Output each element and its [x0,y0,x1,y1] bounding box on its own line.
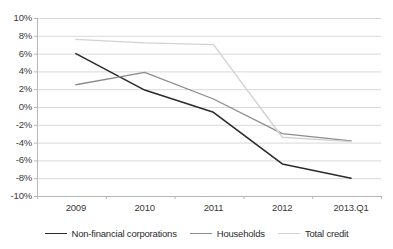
y-axis-tick-label: 6% [0,49,32,59]
legend-label: Total credit [305,228,349,239]
y-axis-tick-label: 8% [0,31,32,41]
y-axis-tick-label: -10% [0,191,32,201]
chart-legend: Non-financial corporationsHouseholdsTota… [0,228,393,239]
y-axis-tick-label: -6% [0,155,32,165]
legend-label: Non-financial corporations [72,228,177,239]
legend-item[interactable]: Households [190,228,265,239]
y-axis-tick-label: -4% [0,138,32,148]
x-axis-tick-label: 2012 [247,202,317,213]
series-line [76,39,351,141]
legend-swatch-icon [45,233,67,234]
y-axis-tick-label: 2% [0,84,32,94]
y-axis-tick-label: -8% [0,173,32,183]
series-line [76,72,351,141]
y-axis-tick-label: 4% [0,66,32,76]
legend-item[interactable]: Non-financial corporations [45,228,177,239]
x-axis-tick-label: 2011 [178,202,248,213]
y-axis-tick-label: -2% [0,120,32,130]
credit-growth-line-chart: 10%8%6%4%2%0%-2%-4%-6%-8%-10% 2009201020… [0,0,393,249]
y-axis-tick-label: 0% [0,102,32,112]
legend-item[interactable]: Total credit [278,228,349,239]
legend-swatch-icon [190,233,212,234]
x-axis-tick-label: 2013.Q1 [316,202,386,213]
x-axis-tick-label: 2009 [41,202,111,213]
data-series-lines [76,39,351,178]
x-axis-tick-label: 2010 [110,202,180,213]
legend-label: Households [217,228,265,239]
legend-swatch-icon [278,233,300,234]
y-axis-tick-label: 10% [0,13,32,23]
